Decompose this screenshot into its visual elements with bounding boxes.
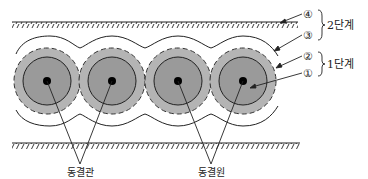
freeze-pipe-diagram: ④ ③ ② ① 2단계 1단계 동결관 동결원 [0, 0, 368, 179]
callout-1: ① [303, 67, 313, 80]
bottom-ground-line [12, 143, 300, 149]
freeze-circle-label: 동결원 [198, 167, 225, 178]
bracket-stage-1 [318, 52, 325, 76]
stage-2-label: 2단계 [327, 19, 354, 32]
callout-2: ② [303, 50, 313, 63]
callout-3: ③ [303, 29, 313, 42]
stage-1-label: 1단계 [327, 58, 354, 71]
callout-4: ④ [303, 8, 313, 21]
top-ground-line [12, 22, 298, 28]
bracket-stage-2 [318, 10, 325, 40]
freeze-pipe-label: 동결관 [67, 167, 94, 178]
